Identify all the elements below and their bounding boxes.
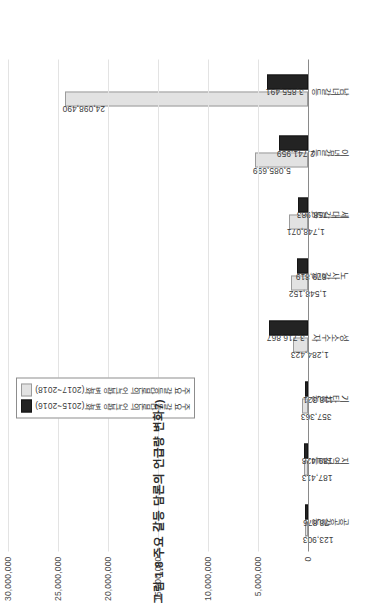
category-label-text: 세대갈등 bbox=[312, 207, 349, 219]
legend-label-series-0: 주요 갈등담론의 언급량 변화(2017~2018) bbox=[35, 384, 190, 396]
category-label-6: 이념갈등 bbox=[312, 121, 372, 183]
value-axis-tick-label: 25,000,000 bbox=[53, 556, 63, 601]
value-axis-line bbox=[308, 59, 309, 551]
value-axis-tick-label: 10,000,000 bbox=[203, 556, 213, 601]
bar-series-1[interactable]: 879,819 bbox=[297, 258, 308, 273]
category-label-1: 지역갈등 bbox=[312, 428, 372, 490]
category-label-text: 기타갈등 bbox=[312, 391, 349, 403]
category-label-text: 이념갈등 bbox=[312, 145, 349, 157]
category-label-3: 성소수자 bbox=[312, 305, 372, 367]
gridline bbox=[258, 59, 259, 551]
category-label-text: 지역갈등 bbox=[312, 453, 349, 465]
category-label-text: 공공갈등 bbox=[312, 514, 349, 526]
value-axis-tick-label: 0 bbox=[303, 556, 313, 561]
category-label-text: 노사갈등 bbox=[312, 268, 349, 280]
bar-value-label: 24,098,490 bbox=[63, 103, 106, 113]
category-label-5: 세대갈등 bbox=[312, 182, 372, 244]
gridline bbox=[58, 59, 59, 551]
rotated-chart-canvas: 123,90378,876187,413189,428357,363118,32… bbox=[0, 0, 378, 603]
legend-swatch-series-0 bbox=[21, 383, 32, 396]
legend-swatch-series-1 bbox=[21, 399, 32, 412]
value-axis-tick-label: 30,000,000 bbox=[3, 556, 13, 601]
chart-legend: 주요 갈등담론의 언급량 변화(2017~2018) 주요 갈등담론의 언급량 … bbox=[16, 377, 195, 418]
category-label-text: 남녀갈등 bbox=[312, 84, 349, 96]
gridline bbox=[108, 59, 109, 551]
value-axis-tick-label: 20,000,000 bbox=[103, 556, 113, 601]
legend-label-series-1: 주요 갈등담론의 언급량 변화(2015~2016) bbox=[35, 400, 190, 412]
bar-series-1[interactable]: 3,855,491 bbox=[267, 74, 308, 89]
bar-value-label: 3,716,867 bbox=[267, 332, 305, 342]
gridline bbox=[208, 59, 209, 551]
category-label-0: 공공갈등 bbox=[312, 490, 372, 552]
figure-caption: 그림 1.8 주요 갈등 담론의 언급량 변화7) bbox=[150, 399, 166, 603]
category-label-7: 남녀갈등 bbox=[312, 59, 372, 121]
figure-root: 123,90378,876187,413189,428357,363118,32… bbox=[0, 0, 378, 603]
category-axis-labels: 공공갈등지역갈등기타갈등성소수자노사갈등세대갈등이념갈등남녀갈등 bbox=[312, 59, 372, 551]
bar-series-1[interactable]: 2,741,959 bbox=[279, 135, 308, 150]
category-label-4: 노사갈등 bbox=[312, 244, 372, 306]
category-label-text: 성소수자 bbox=[312, 330, 349, 342]
legend-item-0: 주요 갈등담론의 언급량 변화(2017~2018) bbox=[21, 383, 190, 396]
value-axis-tick-label: 5,000,000 bbox=[253, 556, 263, 596]
bar-value-label: 3,855,491 bbox=[265, 86, 303, 96]
category-label-2: 기타갈등 bbox=[312, 367, 372, 429]
bar-series-1[interactable]: 758,983 bbox=[298, 197, 308, 212]
bar-series-1[interactable]: 3,716,867 bbox=[269, 320, 308, 335]
gridline bbox=[8, 59, 9, 551]
